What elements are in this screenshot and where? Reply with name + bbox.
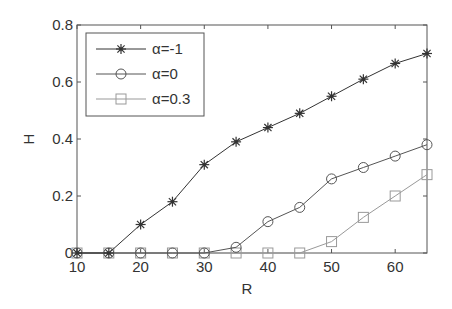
x-tick-label: 20 (132, 258, 149, 275)
x-tick-label: 30 (196, 258, 213, 275)
legend-label: α=-1 (152, 40, 183, 57)
asterisk-marker-icon (263, 123, 273, 133)
y-tick-label: 0.4 (52, 130, 73, 147)
asterisk-marker-icon (104, 248, 114, 258)
legend: α=-1α=0α=0.3 (86, 33, 204, 116)
legend-label: α=0.3 (152, 90, 190, 107)
x-axis-label: R (242, 280, 253, 297)
y-axis-label: H (20, 134, 37, 145)
x-tick-label: 60 (387, 258, 404, 275)
y-tick-label: 0.8 (52, 16, 73, 33)
asterisk-marker-icon (390, 58, 400, 68)
series-line (77, 145, 427, 253)
x-tick-label: 50 (323, 258, 340, 275)
asterisk-marker-icon (358, 74, 368, 84)
y-tick-label: 0.2 (52, 187, 73, 204)
asterisk-marker-icon (136, 220, 146, 230)
line-chart: 10203040506000.20.40.60.8 α=-1α=0α=0.3 R… (0, 0, 452, 309)
legend-label: α=0 (152, 65, 178, 82)
x-tick-label: 40 (260, 258, 277, 275)
asterisk-marker-icon (167, 197, 177, 207)
y-tick-label: 0.6 (52, 73, 73, 90)
asterisk-marker-icon (422, 49, 432, 59)
asterisk-marker-icon (199, 160, 209, 170)
asterisk-marker-icon (72, 248, 82, 258)
asterisk-marker-icon (295, 108, 305, 118)
series-square (72, 170, 432, 258)
asterisk-marker-icon (231, 137, 241, 147)
series-circle (72, 140, 432, 258)
series-line (77, 175, 427, 253)
asterisk-marker-icon (327, 91, 337, 101)
asterisk-marker-icon (116, 44, 126, 54)
